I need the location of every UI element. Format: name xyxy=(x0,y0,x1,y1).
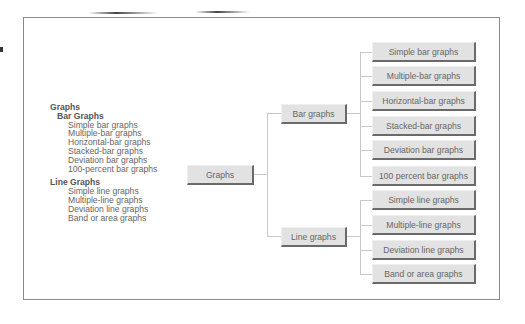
outline-item: 100-percent bar graphs xyxy=(50,165,157,174)
connector xyxy=(360,225,372,226)
connector xyxy=(345,113,360,114)
connector xyxy=(360,150,372,151)
node-deviation-line-graphs: Deviation line graphs xyxy=(372,240,476,260)
outline-list: Graphs Bar Graphs Simple bar graphs Mult… xyxy=(50,103,157,222)
margin-mark xyxy=(0,47,3,52)
node-multiple-bar-graphs: Multiple-bar graphs xyxy=(372,66,476,86)
node-simple-line-graphs: Simple line graphs xyxy=(372,190,476,210)
node-graphs: Graphs xyxy=(187,165,254,185)
connector xyxy=(360,76,372,77)
node-100-percent-bar-graphs: 100 percent bar graphs xyxy=(372,166,476,186)
connector xyxy=(267,113,281,114)
connector xyxy=(360,200,372,201)
node-simple-bar-graphs: Simple bar graphs xyxy=(372,42,476,62)
node-deviation-bar-graphs: Deviation bar graphs xyxy=(372,140,476,160)
node-multiple-line-graphs: Multiple-line graphs xyxy=(372,215,476,235)
node-horizontal-bar-graphs: Horizontal-bar graphs xyxy=(372,91,476,111)
connector xyxy=(345,236,360,237)
connector xyxy=(360,52,372,53)
connector xyxy=(267,113,268,237)
connector xyxy=(360,274,372,275)
connector xyxy=(360,52,361,177)
connector xyxy=(360,250,372,251)
connector xyxy=(360,200,361,275)
connector xyxy=(360,176,372,177)
connector xyxy=(253,174,267,175)
node-band-or-area-graphs: Band or area graphs xyxy=(372,264,476,284)
connector xyxy=(360,101,372,102)
connector xyxy=(267,236,281,237)
node-stacked-bar-graphs: Stacked-bar graphs xyxy=(372,116,476,136)
node-bar-graphs: Bar graphs xyxy=(281,104,347,124)
node-line-graphs: Line graphs xyxy=(281,227,347,247)
outline-item: Band or area graphs xyxy=(50,214,157,223)
scan-artifact xyxy=(195,11,250,13)
connector xyxy=(360,126,372,127)
scan-artifact xyxy=(88,12,158,14)
